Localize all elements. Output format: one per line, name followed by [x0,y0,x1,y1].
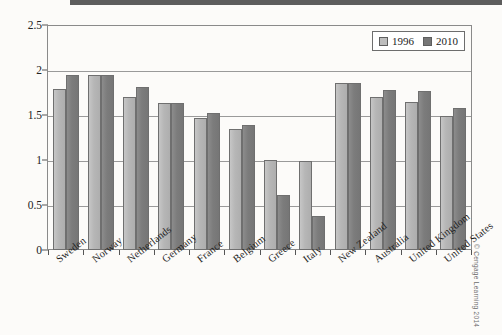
bar-1996 [123,97,136,250]
x-axis-tick-mark [119,250,120,255]
bar-2010 [136,87,149,250]
bar-group [370,26,396,250]
chart-legend: 1996 2010 [372,31,465,51]
bar-group [158,26,184,250]
bar-group [53,26,79,250]
bar-1996 [405,102,418,250]
bar-2010 [207,113,220,250]
copyright-credit: © Cengage Learning 2014 [473,244,480,327]
legend-label-1996: 1996 [392,35,414,47]
x-axis-tick-mark [330,250,331,255]
bar-2010 [242,125,255,250]
x-axis-tick-mark [154,250,155,255]
bar-2010 [418,91,431,250]
bar-group [335,26,361,250]
bar-group [88,26,114,250]
bar-1996 [88,75,101,250]
bar-group [299,26,325,250]
bar-1996 [299,161,312,250]
legend-label-2010: 2010 [436,35,458,47]
page-header-band [70,0,502,5]
bar-2010 [171,103,184,250]
bar-2010 [66,75,79,251]
x-axis-tick-mark [189,250,190,255]
bar-series-container [48,26,471,250]
bar-group [229,26,255,250]
x-axis-tick-mark [471,250,472,255]
bar-group [123,26,149,250]
bar-1996 [335,83,348,250]
x-axis-tick-mark [365,250,366,255]
x-axis-tick-mark [83,250,84,255]
x-axis-tick-mark [260,250,261,255]
x-axis-tick-mark [295,250,296,255]
x-axis-tick-mark [224,250,225,255]
light-gray-swatch-icon [379,37,388,46]
bar-group [194,26,220,250]
bar-1996 [229,129,242,250]
bar-2010 [348,83,361,250]
x-axis-tick-mark [436,250,437,255]
x-axis-tick-mark [48,250,49,255]
bar-1996 [194,118,207,250]
x-axis-tick-mark [401,250,402,255]
legend-entry-2010: 2010 [423,35,458,47]
legend-entry-1996: 1996 [379,35,414,47]
bar-1996 [53,89,66,250]
bar-group [264,26,290,250]
bar-2010 [101,75,114,250]
bar-1996 [264,160,277,250]
bar-group [405,26,431,250]
dark-gray-swatch-icon [423,37,432,46]
